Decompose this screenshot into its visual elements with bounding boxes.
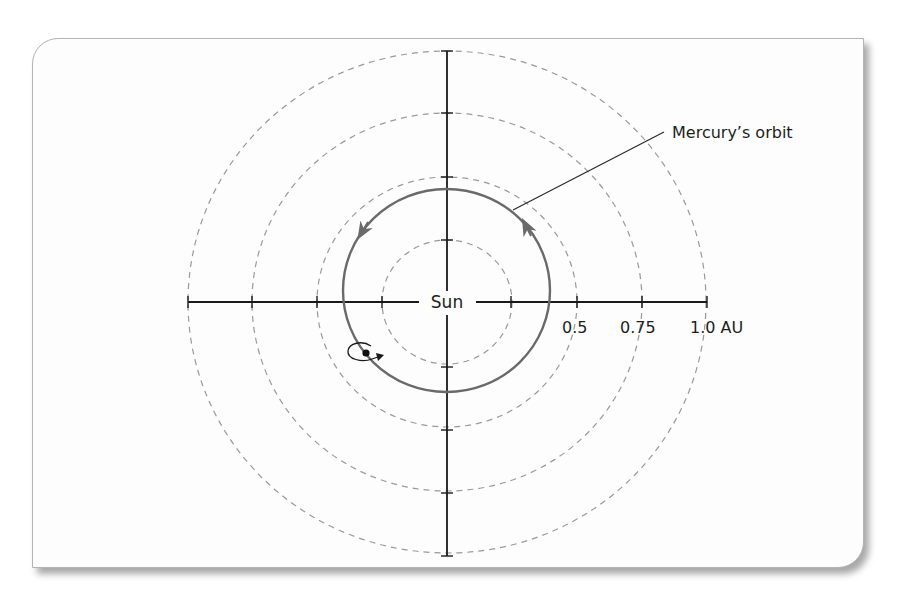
callout-label: Mercury’s orbit [672, 123, 793, 142]
orbit-diagram: Sun Mercury’s orbit 0.5 0.75 1.0 AU [0, 0, 899, 599]
callout-leader-line [513, 132, 664, 210]
mercury-planet [348, 343, 384, 361]
axis-label-0-75: 0.75 [620, 318, 656, 337]
axis-label-1-0-au: 1.0 AU [690, 318, 743, 337]
rotation-arrowhead-icon [376, 353, 384, 361]
mercury-dot [362, 349, 369, 356]
axis-label-0-5: 0.5 [562, 318, 587, 337]
sun-label: Sun [431, 292, 463, 312]
